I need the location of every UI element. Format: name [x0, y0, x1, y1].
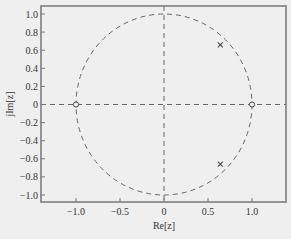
- x-axis-label: Re[z]: [153, 220, 175, 231]
- y-tick-label: 0.4: [26, 63, 39, 74]
- y-tick-label: 0: [33, 99, 38, 110]
- y-tick-label: −0.2: [20, 117, 38, 128]
- y-axis-label: jIm[z]: [4, 92, 15, 118]
- y-tick-label: 0.2: [26, 81, 39, 92]
- pole-zero-chart: −1.0−0.500.51.01.00.80.60.40.20−0.2−0.4−…: [0, 0, 291, 239]
- pole-marker: [218, 162, 223, 167]
- pole-marker: [218, 42, 223, 47]
- y-tick-label: −0.4: [20, 135, 38, 146]
- y-tick-label: 1.0: [26, 9, 39, 20]
- y-tick-label: −0.8: [20, 171, 38, 182]
- x-tick-label: 0.5: [202, 206, 215, 217]
- x-tick-label: −1.0: [67, 206, 85, 217]
- y-tick-label: −1.0: [20, 190, 38, 201]
- zero-marker: [249, 102, 254, 107]
- zero-marker: [73, 102, 78, 107]
- y-tick-label: −0.6: [20, 153, 38, 164]
- y-tick-label: 0.8: [26, 27, 39, 38]
- y-tick-label: 0.6: [26, 45, 39, 56]
- x-tick-label: −0.5: [111, 206, 129, 217]
- x-tick-label: 0: [162, 206, 167, 217]
- x-tick-label: 1.0: [246, 206, 259, 217]
